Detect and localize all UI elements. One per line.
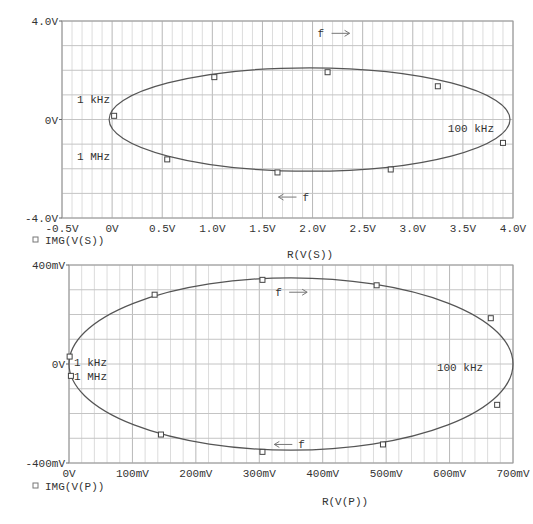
data-point-marker: [380, 442, 385, 447]
frequency-direction-label: f: [302, 192, 309, 204]
data-point-marker: [275, 170, 280, 175]
legend-marker-icon: [33, 483, 38, 488]
x-axis-label: R(V(P)): [322, 496, 368, 508]
y-tick-label: -400mV: [25, 458, 65, 470]
data-point-marker: [495, 402, 500, 407]
x-tick-label: 100mV: [116, 468, 149, 480]
legend-label: IMG(V(S)): [45, 235, 104, 247]
frequency-label: 100 kHz: [437, 362, 483, 374]
data-point-marker: [112, 113, 117, 118]
data-point-marker: [260, 449, 265, 454]
data-point-marker: [158, 432, 163, 437]
data-point-marker: [388, 167, 393, 172]
frequency-label: 1 kHz: [74, 357, 107, 369]
frequency-direction-label: f: [318, 28, 325, 40]
data-point-marker: [152, 292, 157, 297]
data-point-marker: [435, 84, 440, 89]
x-tick-label: 3.5V: [450, 223, 477, 235]
plot-bottom-v-p: 0V100mV200mV300mV400mV500mV600mV700mV400…: [25, 260, 530, 508]
x-tick-label: 400mV: [306, 468, 339, 480]
data-point-marker: [500, 140, 505, 145]
x-tick-label: 0.5V: [149, 223, 176, 235]
x-tick-label: 2.0V: [299, 223, 326, 235]
y-tick-label: 4.0V: [32, 16, 59, 28]
frequency-direction-label: f: [275, 287, 282, 299]
data-point-marker: [488, 316, 493, 321]
x-tick-label: 4.0V: [500, 223, 527, 235]
y-tick-label: 400mV: [32, 260, 65, 272]
data-point-marker: [374, 283, 379, 288]
legend-marker-icon: [33, 237, 38, 242]
y-tick-label: 0V: [45, 115, 59, 127]
data-point-marker: [165, 157, 170, 162]
x-axis-label: R(V(S)): [287, 249, 333, 261]
data-point-marker: [325, 70, 330, 75]
y-tick-label: -4.0V: [25, 213, 58, 225]
x-tick-label: 1.5V: [249, 223, 276, 235]
data-point-marker: [260, 277, 265, 282]
frequency-direction-label: f: [298, 439, 305, 451]
plot-top-v-s: -0.5V0V0.5V1.0V1.5V2.0V2.5V3.0V3.5V4.0V4…: [25, 16, 527, 261]
frequency-label: 1 kHz: [77, 94, 110, 106]
x-tick-label: 300mV: [243, 468, 276, 480]
x-tick-label: 0V: [106, 223, 120, 235]
nyquist-charts: -0.5V0V0.5V1.0V1.5V2.0V2.5V3.0V3.5V4.0V4…: [0, 0, 533, 524]
data-point-marker: [68, 373, 73, 378]
legend-label: IMG(V(P)): [45, 481, 104, 493]
y-tick-label: 0V: [52, 359, 66, 371]
frequency-label: 100 kHz: [448, 123, 494, 135]
x-tick-label: 700mV: [496, 468, 529, 480]
x-tick-label: 3.0V: [400, 223, 427, 235]
frequency-label: 1 MHz: [77, 151, 110, 163]
x-tick-label: 2.5V: [349, 223, 376, 235]
x-tick-label: 1.0V: [199, 223, 226, 235]
grid: [62, 21, 513, 218]
x-tick-label: 200mV: [179, 468, 212, 480]
data-point-marker: [67, 354, 72, 359]
x-tick-label: 500mV: [370, 468, 403, 480]
frequency-label: 1 MHz: [74, 371, 107, 383]
data-point-marker: [212, 75, 217, 80]
x-tick-label: 600mV: [433, 468, 466, 480]
